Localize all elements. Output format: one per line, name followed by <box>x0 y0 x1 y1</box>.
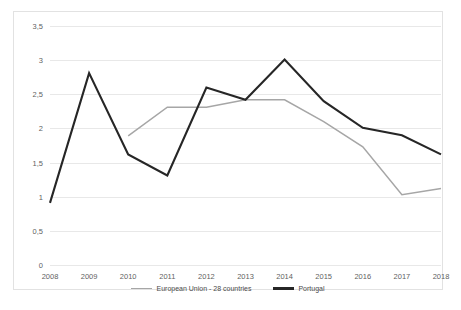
y-axis-tick-label: 0,5 <box>33 226 43 235</box>
y-axis-tick-label: 0 <box>39 261 43 270</box>
y-axis-tick-label: 1,5 <box>33 158 43 167</box>
x-axis-tick-label: 2018 <box>433 272 450 281</box>
x-axis-tick-label: 2010 <box>120 272 137 281</box>
y-axis-tick-label: 2 <box>39 124 43 133</box>
legend-line-swatch <box>131 288 152 290</box>
plot-area: 00,511,522,533,5 20082009201020112012201… <box>50 26 441 265</box>
legend-item[interactable]: Portugal <box>273 285 324 292</box>
legend-item[interactable]: European Union - 28 countries <box>131 285 251 292</box>
series-line-european-union-28-countries <box>128 100 441 195</box>
legend-item-label: European Union - 28 countries <box>156 285 251 292</box>
legend-item-label: Portugal <box>298 285 324 292</box>
y-axis-tick-label: 3 <box>39 56 43 65</box>
series-lines <box>50 26 441 265</box>
series-line-portugal <box>50 59 441 202</box>
legend-line-swatch <box>273 287 294 289</box>
x-axis-tick-label: 2014 <box>276 272 293 281</box>
x-axis-tick-label: 2009 <box>81 272 98 281</box>
gridline <box>50 265 441 266</box>
y-axis-tick-label: 3,5 <box>33 22 43 31</box>
y-axis-tick-label: 2,5 <box>33 90 43 99</box>
x-axis-tick-label: 2012 <box>198 272 215 281</box>
x-axis-tick-label: 2011 <box>159 272 175 281</box>
x-axis-tick-label: 2008 <box>42 272 59 281</box>
chart-legend: European Union - 28 countriesPortugal <box>14 285 442 292</box>
x-axis-tick-label: 2016 <box>354 272 371 281</box>
y-axis-tick-label: 1 <box>39 192 43 201</box>
x-axis-tick-label: 2013 <box>237 272 254 281</box>
chart-container: 00,511,522,533,5 20082009201020112012201… <box>13 11 443 290</box>
x-axis-tick-label: 2015 <box>315 272 332 281</box>
x-axis-tick-label: 2017 <box>394 272 411 281</box>
